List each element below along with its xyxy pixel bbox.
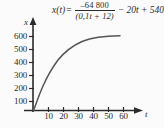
x-tick-label-60: 60	[116, 112, 132, 121]
x-axis-label: t	[145, 109, 148, 119]
y-tick-label-200: 200	[3, 84, 27, 93]
x-tick-label-30: 30	[71, 112, 87, 121]
x-axis-arrow	[134, 107, 143, 114]
y-tick-label-500: 500	[3, 45, 27, 54]
x-tick-label-50: 50	[101, 112, 117, 121]
y-tick-label-100: 100	[3, 97, 27, 106]
x-tick-label-40: 40	[86, 112, 102, 121]
math-figure: x(t) = –64 800 (0,1t + 12) − 20t + 540	[0, 0, 164, 128]
x-tick-label-20: 20	[56, 112, 72, 121]
y-axis-arrow	[30, 17, 37, 25]
y-axis-label: x	[24, 17, 28, 27]
y-tick-label-600: 600	[3, 32, 27, 41]
x-tick-label-10: 10	[41, 112, 57, 121]
y-tick-label-300: 300	[3, 71, 27, 80]
function-curve	[34, 36, 121, 111]
y-tick-label-400: 400	[3, 58, 27, 67]
